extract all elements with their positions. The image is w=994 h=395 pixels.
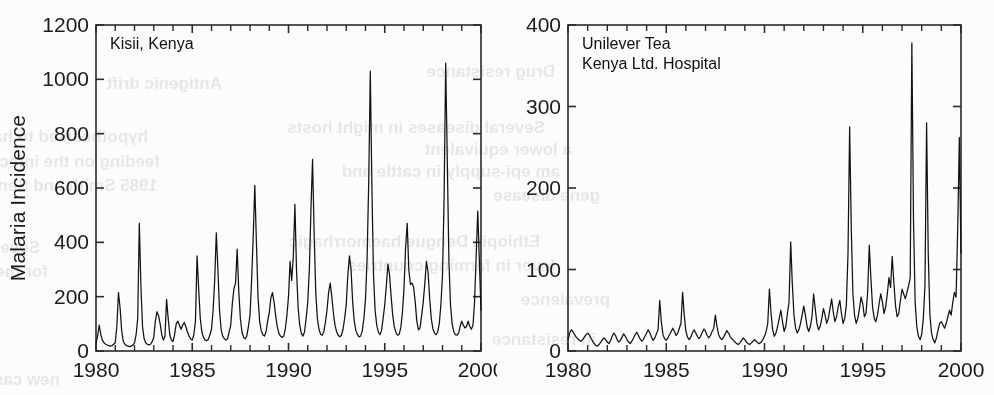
panel-annotation-line: Kenya Ltd. Hospital [582, 55, 721, 72]
panel-annotation-line: Kisii, Kenya [110, 35, 194, 52]
x-axis-tick-label: 1980 [545, 358, 592, 381]
y-axis-tick-label: 200 [526, 176, 561, 199]
x-axis-tick-label: 2000 [938, 358, 985, 381]
y-axis-tick-label: 300 [526, 95, 561, 118]
y-axis-label: Malaria Incidence [6, 114, 30, 280]
y-axis-tick-label: 100 [526, 258, 561, 281]
x-axis-tick-label: 1995 [361, 358, 408, 381]
y-axis-tick-label: 400 [526, 13, 561, 36]
data-series-line [568, 43, 961, 346]
y-axis-label-wrap: Malaria Incidence [0, 0, 38, 395]
x-axis-tick-label: 1990 [741, 358, 788, 381]
data-series-line [96, 63, 481, 347]
y-axis-tick-label: 1200 [42, 13, 89, 36]
x-axis-tick-label: 1980 [73, 358, 120, 381]
chart-panel-unilever-tea: 010020030040019801985199019952000Unileve… [497, 0, 994, 395]
plot-frame [568, 25, 961, 351]
x-axis-tick-label: 1995 [839, 358, 886, 381]
chart-svg-kisii-kenya: 0200400600800100012001980198519901995200… [0, 0, 497, 395]
chart-panel-kisii-kenya: Malaria Incidence 0200400600800100012001… [0, 0, 497, 395]
x-axis-tick-label: 2000 [458, 358, 497, 381]
x-axis-tick-label: 1985 [643, 358, 690, 381]
y-axis-tick-label: 400 [54, 230, 89, 253]
figure-page: Antigenic driftDrug resistancehypothesis… [0, 0, 994, 395]
x-axis-tick-label: 1985 [169, 358, 216, 381]
y-axis-tick-label: 600 [54, 176, 89, 199]
chart-svg-unilever-tea: 010020030040019801985199019952000Unileve… [497, 0, 994, 395]
panel-annotation-line: Unilever Tea [582, 35, 671, 52]
y-axis-tick-label: 200 [54, 285, 89, 308]
y-axis-tick-label: 800 [54, 122, 89, 145]
x-axis-tick-label: 1990 [265, 358, 312, 381]
y-axis-tick-label: 1000 [42, 67, 89, 90]
